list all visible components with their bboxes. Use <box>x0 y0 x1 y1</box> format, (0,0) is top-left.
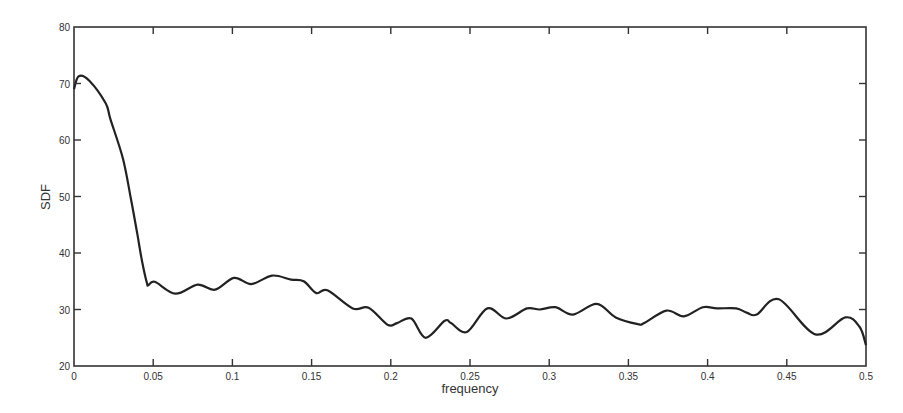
x-tick-label: 0 <box>71 371 77 382</box>
y-axis-label: SDF <box>38 184 53 210</box>
x-tick-label: 0.5 <box>859 371 873 382</box>
x-tick-label: 0.2 <box>384 371 398 382</box>
y-tick-label: 20 <box>59 361 71 372</box>
x-tick-label: 0.35 <box>619 371 639 382</box>
y-axis: 20304050607080 <box>59 22 866 372</box>
y-tick-label: 70 <box>59 79 71 90</box>
x-axis: 00.050.10.150.20.250.30.350.40.450.5 <box>71 27 873 382</box>
y-tick-label: 40 <box>59 248 71 259</box>
y-tick-label: 50 <box>59 192 71 203</box>
x-tick-label: 0.15 <box>302 371 322 382</box>
x-tick-label: 0.4 <box>701 371 715 382</box>
plot-area <box>74 27 866 366</box>
x-tick-label: 0.3 <box>542 371 556 382</box>
plot-frame <box>74 27 866 366</box>
sdf-series-line <box>74 76 866 345</box>
y-tick-label: 80 <box>59 22 71 33</box>
x-axis-label: frequency <box>441 381 499 396</box>
x-tick-label: 0.1 <box>225 371 239 382</box>
sdf-line-chart: 00.050.10.150.20.250.30.350.40.450.5 203… <box>0 0 903 413</box>
y-tick-label: 60 <box>59 135 71 146</box>
x-tick-label: 0.45 <box>777 371 797 382</box>
x-tick-label: 0.05 <box>143 371 163 382</box>
y-tick-label: 30 <box>59 305 71 316</box>
